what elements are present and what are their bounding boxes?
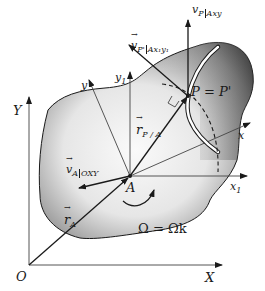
x-axis-label: x xyxy=(238,130,244,141)
point-A xyxy=(128,174,132,178)
y1-axis-label: y1 xyxy=(115,72,126,86)
y-axis-label: y xyxy=(81,80,87,91)
omega-label: Ω = Ωk xyxy=(138,222,187,235)
v-P-Axy-label: vPAxy xyxy=(192,4,221,18)
Y-axis-label: Y xyxy=(13,104,22,117)
point-P xyxy=(186,94,190,98)
rigid-body xyxy=(39,42,253,239)
v-Pprime-Ax1y1-label: vP'Ax₁y₁ xyxy=(131,40,169,54)
point-A-label: A xyxy=(126,181,135,194)
x1-axis-label: x1 xyxy=(230,181,241,195)
point-P-label: P = P' xyxy=(191,85,231,98)
r-PA-label: rP / A xyxy=(136,123,161,139)
v-A-label: vAOXY xyxy=(66,164,98,178)
origin-label: O xyxy=(16,270,27,283)
X-axis-label: X xyxy=(205,271,214,284)
r-A-label: rA xyxy=(64,213,76,229)
